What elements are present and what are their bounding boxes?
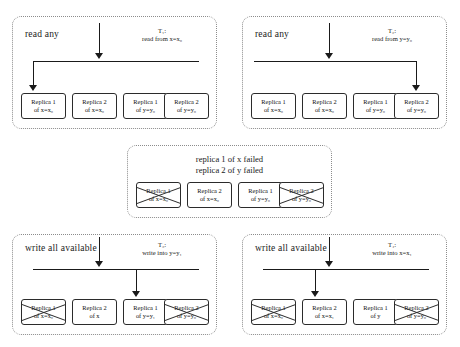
replica-box-failed[interactable]: Replica 1 of x=x₀ [251, 299, 296, 325]
replica-box[interactable]: Replica 1 of x=x₀ [21, 93, 66, 119]
branch-stem [136, 269, 137, 293]
replica-box-line2: of x=x₀ [315, 106, 334, 114]
replica-box-line2: of y=y₀ [407, 106, 426, 114]
transaction-arrow-stem [99, 23, 100, 56]
replica-box-line1: Replica 1 [248, 187, 272, 195]
replica-box-line1: Replica 1 [31, 304, 55, 312]
replica-box-line2: of y=y₁ [136, 312, 155, 320]
replica-box-line1: Replica 1 [133, 304, 157, 312]
transaction-operation: write into y=y₁ [142, 249, 182, 256]
replica-box[interactable]: Replica 1 of y=y₀ [353, 93, 398, 119]
transaction-arrow-stem [329, 23, 330, 56]
replica-box[interactable]: Replica 2 of x=x₀ [187, 182, 232, 208]
panel-title: write all available [255, 243, 327, 253]
replica-box-line2: of y [370, 312, 380, 320]
panel-title: read any [255, 29, 289, 39]
panel-write-all-x: write all available T₄: write into x=x₁ … [242, 234, 447, 335]
replica-box[interactable]: Replica 1 of y=y₀ [123, 93, 168, 119]
replica-box[interactable]: Replica 2 of x [72, 299, 117, 325]
replica-box-line1: Replica 2 [174, 304, 198, 312]
replica-box-failed[interactable]: Replica 1 of x=x₀ [21, 299, 66, 325]
replica-box-line2: of x=x₀ [200, 195, 219, 203]
replica-box[interactable]: Replica 1 of y=y₁ [123, 299, 168, 325]
replica-box[interactable]: Replica 1 of x=x₀ [251, 93, 296, 119]
transaction-name: T₁: [158, 27, 166, 34]
transaction-arrow-stem [99, 237, 100, 264]
replication-bus [33, 61, 199, 62]
replica-box-line1: Replica 1 [31, 98, 55, 106]
replica-box-line1: Replica 2 [312, 98, 336, 106]
replica-box-failed[interactable]: Replica 1 of x=x₀ [136, 182, 181, 208]
replica-box-failed[interactable]: Replica 2 of y=y₀ [279, 182, 324, 208]
replica-box-line2: of y=y₀ [292, 195, 311, 203]
replica-box-line1: Replica 1 [146, 187, 170, 195]
replica-box-line1: Replica 1 [363, 98, 387, 106]
replica-box-line1: Replica 2 [404, 98, 428, 106]
replica-box[interactable]: Replica 1 of y=y₀ [238, 182, 283, 208]
transaction-operation: read from y=y₀ [372, 35, 412, 42]
transaction-label: T₂: read from y=y₀ [346, 27, 438, 44]
replica-box-line1: Replica 1 [363, 304, 387, 312]
replica-box-line2: of y=y₀ [366, 106, 385, 114]
branch-arrow-head [132, 291, 140, 297]
panel-failures: replica 1 of x failed replica 2 of y fai… [127, 145, 332, 218]
replica-box-line2: of x=x₀ [264, 106, 283, 114]
transaction-arrow-stem [329, 237, 330, 264]
replica-box[interactable]: Replica 2 of y=y₀ [164, 93, 209, 119]
replica-box-line1: Replica 2 [289, 187, 313, 195]
replica-box[interactable]: Replica 2 of x=x₀ [302, 93, 347, 119]
failure-note: replica 1 of x failed replica 2 of y fai… [128, 154, 331, 176]
replica-box-failed[interactable]: Replica 2 of y=y₀ [394, 299, 439, 325]
replica-box[interactable]: Replica 2 of y=y₀ [394, 93, 439, 119]
replica-box-line1: Replica 2 [82, 98, 106, 106]
replica-box-line2: of x=x₁ [315, 312, 334, 320]
panel-write-all-y: write all available T₃: write into y=y₁ … [12, 234, 217, 335]
replication-bus [33, 269, 199, 270]
transaction-label: T₄: write into x=x₁ [346, 241, 438, 258]
branch-arrow-head [29, 85, 37, 91]
transaction-name: T₄: [388, 241, 396, 248]
transaction-operation: read from x=x₀ [142, 35, 182, 42]
panel-title: read any [25, 29, 59, 39]
panel-read-any-y: read any T₂: read from y=y₀ Replica 1 of… [242, 16, 447, 129]
transaction-arrow-head [95, 261, 103, 267]
replica-box-line1: Replica 2 [174, 98, 198, 106]
replica-box-line1: Replica 1 [261, 98, 285, 106]
replica-box[interactable]: Replica 2 of x=x₀ [72, 93, 117, 119]
replica-box-line2: of y=y₀ [177, 106, 196, 114]
branch-arrow-head [311, 291, 319, 297]
replica-box-line2: of x=x₀ [34, 312, 53, 320]
branch-stem [315, 269, 316, 293]
transaction-arrow-head [95, 53, 103, 59]
transaction-arrow-head [325, 53, 333, 59]
branch-stem [33, 61, 34, 87]
transaction-name: T₃: [158, 241, 166, 248]
replica-box-line2: of x=x₀ [149, 195, 168, 203]
transaction-operation: write into x=x₁ [372, 249, 412, 256]
panel-read-any-x: read any T₁: read from x=x₀ Replica 1 of… [12, 16, 217, 129]
replica-box-line1: Replica 2 [404, 304, 428, 312]
replica-box-line2: of y=y₀ [251, 195, 270, 203]
transaction-arrow-head [325, 261, 333, 267]
replica-box-line2: of y=y₀ [136, 106, 155, 114]
replica-box-line2: of x=x₀ [34, 106, 53, 114]
replication-bus [263, 269, 429, 270]
replica-box-failed[interactable]: Replica 2 of y=y₀ [164, 299, 209, 325]
replica-box-line2: of y=y₀ [177, 312, 196, 320]
replication-bus [254, 61, 417, 62]
replica-box-line2: of y=y₀ [407, 312, 426, 320]
replica-box[interactable]: Replica 2 of x=x₁ [302, 299, 347, 325]
replica-box-line1: Replica 2 [197, 187, 221, 195]
replica-box-line2: of x=x₀ [85, 106, 104, 114]
failure-note-line1: replica 1 of x failed [196, 154, 263, 164]
branch-stem [416, 61, 417, 87]
replica-box-line2: of x [89, 312, 99, 320]
failure-note-line2: replica 2 of y failed [196, 165, 263, 175]
replica-box-line1: Replica 1 [261, 304, 285, 312]
transaction-label: T₃: write into y=y₁ [116, 241, 208, 258]
replica-box[interactable]: Replica 1 of y [353, 299, 398, 325]
replica-box-line2: of x=x₀ [264, 312, 283, 320]
branch-arrow-head [412, 85, 420, 91]
replica-box-line1: Replica 2 [312, 304, 336, 312]
replica-box-line1: Replica 1 [133, 98, 157, 106]
